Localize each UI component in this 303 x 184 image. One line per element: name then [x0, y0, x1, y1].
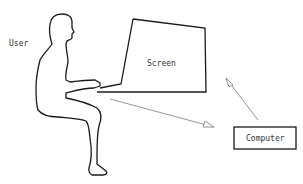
diagram-canvas: User Screen Computer — [0, 0, 303, 184]
screen-shape — [97, 19, 206, 92]
arrow-computer-to-screen — [226, 78, 258, 120]
user-label: User — [9, 39, 28, 48]
screen-label: Screen — [147, 59, 176, 68]
arrow-user-to-computer — [110, 99, 214, 127]
computer-label: Computer — [246, 134, 285, 143]
user-figure — [36, 14, 107, 175]
